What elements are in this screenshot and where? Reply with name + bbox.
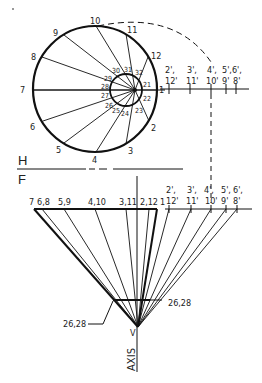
label-11: 11: [127, 25, 137, 35]
label-2: 2: [151, 123, 156, 133]
apex-label-v: V: [130, 328, 136, 338]
tl-label-9p: 9': [222, 76, 229, 86]
true-length-labels-top-view: 2', 3', 4', 5',6', 12' 11' 10' 9' 8': [165, 65, 242, 86]
front-label-1: 1: [160, 197, 165, 207]
label-1: 1: [159, 85, 164, 95]
label-10: 10: [90, 16, 100, 26]
label-29: 29: [104, 75, 112, 83]
ftl-label-8p: 8': [233, 196, 240, 206]
base-circle: [33, 26, 157, 152]
label-5: 5: [56, 145, 61, 155]
view-label-h: H: [18, 153, 27, 168]
label-24: 24: [121, 110, 129, 118]
label-31: 31: [124, 66, 132, 74]
tl-label-12p: 12': [165, 76, 178, 86]
ftl-label-2p: 2',: [166, 185, 176, 195]
view-label-f: F: [18, 172, 26, 187]
front-element-lines: [42, 209, 149, 327]
ftl-label-4p: 4',: [204, 185, 214, 195]
ftl-label-9p: 9': [221, 196, 228, 206]
label-21: 21: [143, 81, 151, 89]
front-label-7: 7: [29, 197, 34, 207]
label-23: 23: [135, 107, 143, 115]
axis-label: AXIS: [126, 348, 137, 371]
front-edge-left: [34, 209, 138, 327]
label-6: 6: [30, 122, 35, 132]
label-4: 4: [92, 155, 97, 165]
tl-label-2p: 2',: [165, 65, 175, 75]
apex-point: [133, 88, 137, 92]
label-12: 12: [151, 51, 161, 61]
tl-label-56p: 5',6',: [222, 65, 242, 75]
true-length-lines-front: [138, 209, 237, 327]
front-label-3-11: 3,11: [119, 197, 137, 207]
leader-line: [88, 301, 113, 324]
tl-label-11p: 11': [186, 76, 199, 86]
true-length-labels-front-view: 2', 3', 4', 5', 6', 12' 11' 10' 9' 8': [166, 185, 243, 206]
ftl-label-5p: 5',: [221, 185, 231, 195]
label-28: 28: [101, 83, 109, 91]
tl-label-3p: 3',: [187, 65, 197, 75]
ftl-label-12p: 12': [166, 196, 179, 206]
scan-speck: [12, 8, 14, 10]
label-8: 8: [31, 52, 36, 62]
label-9: 9: [53, 28, 58, 38]
label-26: 26: [105, 102, 113, 110]
tl-label-4p: 4',: [207, 65, 217, 75]
front-base-labels: 7 6,8 5,9 4,10 3,11 2,12 1: [29, 197, 165, 207]
label-25: 25: [112, 107, 120, 115]
ftl-label-11p: 11': [186, 196, 199, 206]
label-32: 32: [135, 69, 143, 77]
cone-development-drawing: 1 2 3 4 5 6 7 8 9 10 11 12 21 22 23 24 2…: [0, 0, 262, 383]
label-30: 30: [112, 67, 120, 75]
section-label-right: 26,28: [168, 298, 191, 308]
ftl-label-3p: 3',: [187, 185, 197, 195]
ftl-label-10p: 10': [205, 196, 218, 206]
section-label-left: 26,28: [63, 319, 86, 329]
tl-label-10p: 10': [206, 76, 219, 86]
front-label-5-9: 5,9: [58, 197, 71, 207]
ftl-label-6p: 6',: [233, 185, 243, 195]
front-label-6-8: 6,8: [37, 197, 50, 207]
label-3: 3: [128, 146, 133, 156]
front-label-2-12: 2,12: [140, 197, 158, 207]
front-label-4-10: 4,10: [88, 197, 106, 207]
label-27: 27: [101, 92, 109, 100]
label-22: 22: [143, 95, 151, 103]
label-7: 7: [20, 85, 25, 95]
tl-label-8p: 8': [233, 76, 240, 86]
